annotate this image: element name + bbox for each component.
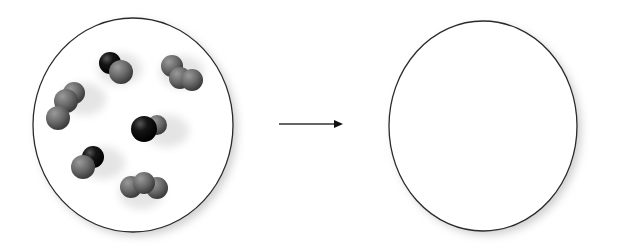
- carbon-atom: [131, 116, 157, 142]
- after-panel: [389, 21, 581, 235]
- reaction-arrow: [279, 120, 343, 128]
- product-container-circle: [389, 21, 577, 231]
- before-panel: [33, 18, 237, 236]
- oxygen-atom: [71, 155, 95, 179]
- oxygen-atom: [181, 69, 203, 91]
- oxygen-atom: [133, 172, 155, 194]
- oxygen-atom: [109, 60, 133, 84]
- oxygen-atom: [46, 106, 70, 130]
- reaction-diagram: [0, 0, 617, 249]
